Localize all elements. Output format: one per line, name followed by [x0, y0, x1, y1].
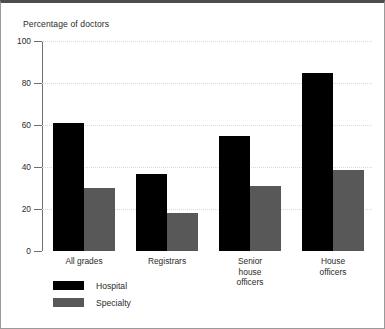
y-tick-label: 60	[1, 120, 31, 130]
category-label-2: Senior house officers	[205, 256, 295, 288]
legend-swatch-icon	[53, 281, 84, 290]
legend-label: Specialty	[96, 298, 131, 308]
y-tick-mark	[34, 167, 42, 168]
y-tick-mark	[34, 83, 42, 84]
chart-legend: HospitalSpecialty	[53, 277, 131, 311]
category-label-0: All grades	[39, 256, 129, 267]
bar-specialty-3	[333, 170, 364, 251]
chart-figure: Percentage of doctors 020406080100 All g…	[0, 0, 385, 329]
bar-hospital-3	[302, 73, 333, 252]
category-label-3: House officers	[288, 256, 378, 277]
y-tick-label: 80	[1, 78, 31, 88]
bar-specialty-2	[250, 186, 281, 251]
plot-area	[42, 41, 372, 251]
y-tick-mark	[34, 209, 42, 210]
y-tick-mark	[34, 251, 42, 252]
y-tick-mark	[34, 41, 42, 42]
y-tick-mark	[34, 125, 42, 126]
category-label-1: Registrars	[122, 256, 212, 267]
y-tick-label: 100	[1, 36, 31, 46]
y-tick-label: 20	[1, 204, 31, 214]
bar-hospital-0	[53, 123, 84, 251]
bar-specialty-1	[167, 213, 198, 251]
gridline	[42, 41, 372, 42]
legend-swatch-icon	[53, 298, 84, 307]
legend-label: Hospital	[96, 281, 127, 291]
legend-item-hospital[interactable]: Hospital	[53, 277, 131, 294]
bar-hospital-2	[219, 136, 250, 252]
bar-specialty-0	[84, 188, 115, 251]
chart-title: Percentage of doctors	[23, 19, 109, 29]
bar-hospital-1	[136, 174, 167, 251]
legend-item-specialty[interactable]: Specialty	[53, 294, 131, 311]
y-tick-label: 0	[1, 246, 31, 256]
y-tick-label: 40	[1, 162, 31, 172]
